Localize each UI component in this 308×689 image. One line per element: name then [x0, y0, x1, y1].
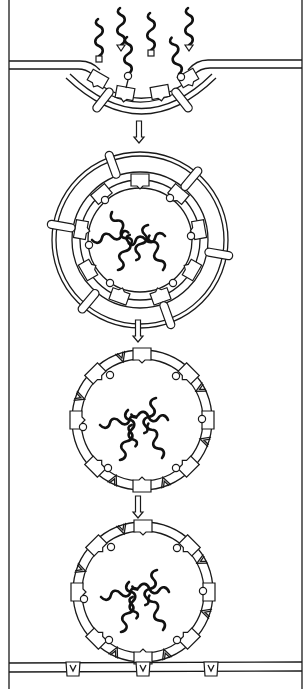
arrow-1 — [134, 121, 144, 143]
v-receptor-1 — [66, 662, 80, 676]
target-membrane — [9, 662, 302, 676]
stage-budding — [9, 8, 302, 114]
diagram-canvas: Schematic of vesicle budding from a dono… — [0, 0, 308, 689]
vesicle-transport-diagram — [0, 0, 308, 689]
arrow-3 — [133, 496, 143, 518]
v-receptor-2 — [136, 662, 150, 676]
stage-docking — [71, 520, 215, 664]
stage-coated-vesicle — [47, 150, 234, 329]
v-receptor-3 — [204, 662, 218, 676]
stage-uncoated-vesicle — [70, 348, 214, 492]
